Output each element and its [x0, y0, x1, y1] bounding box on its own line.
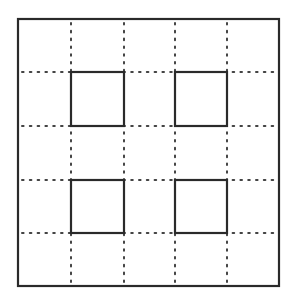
- bold-square: [175, 72, 227, 126]
- bold-square: [71, 180, 124, 233]
- grid-diagram: [0, 0, 292, 298]
- bold-square: [175, 180, 227, 233]
- diagram-container: [0, 0, 292, 298]
- outer-frame: [18, 19, 279, 286]
- bold-squares: [71, 72, 227, 233]
- dotted-grid-lines: [22, 23, 277, 284]
- bold-square: [71, 72, 124, 126]
